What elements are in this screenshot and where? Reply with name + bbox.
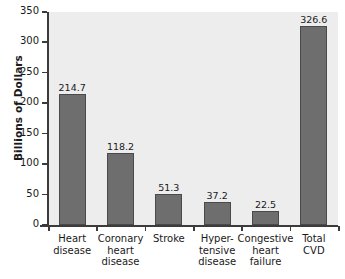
- y-tick-label: 350: [20, 5, 39, 16]
- y-tick-label: 100: [20, 157, 39, 168]
- x-tick-mark: [48, 226, 50, 231]
- bar-value-label: 37.2: [193, 190, 241, 201]
- x-tick-mark: [241, 226, 243, 231]
- y-tick-label: 150: [20, 127, 39, 138]
- y-tick-mark: [42, 163, 47, 165]
- bar: [107, 153, 134, 225]
- bar-value-label: 326.6: [290, 14, 338, 25]
- x-axis-line: [40, 225, 338, 227]
- y-tick-mark: [42, 224, 47, 226]
- bar-value-label: 22.5: [242, 199, 290, 210]
- y-tick-mark: [42, 133, 47, 135]
- x-tick-mark: [193, 226, 195, 231]
- y-axis-line: [47, 12, 49, 226]
- bar-value-label: 214.7: [48, 82, 96, 93]
- bar: [59, 94, 86, 225]
- y-tick-mark: [42, 194, 47, 196]
- x-tick-mark: [338, 226, 340, 231]
- y-tick-label: 50: [26, 188, 39, 199]
- bar-chart: Billions of Dollars 05010015020025030035…: [0, 0, 345, 279]
- x-category-label: Total CVD: [284, 233, 344, 256]
- y-tick-mark: [42, 72, 47, 74]
- x-tick-mark: [290, 226, 292, 231]
- bar: [300, 26, 327, 225]
- y-tick-label: 250: [20, 66, 39, 77]
- bar-value-label: 118.2: [97, 141, 145, 152]
- y-tick-mark: [42, 11, 47, 13]
- y-tick-label: 200: [20, 96, 39, 107]
- x-tick-mark: [96, 226, 98, 231]
- y-tick-mark: [42, 102, 47, 104]
- y-tick-label: 300: [20, 35, 39, 46]
- bar: [204, 202, 231, 225]
- x-tick-mark: [145, 226, 147, 231]
- y-tick-label: 0: [33, 218, 39, 229]
- y-tick-mark: [42, 41, 47, 43]
- bar: [252, 211, 279, 225]
- bar-value-label: 51.3: [145, 182, 193, 193]
- bar: [155, 194, 182, 225]
